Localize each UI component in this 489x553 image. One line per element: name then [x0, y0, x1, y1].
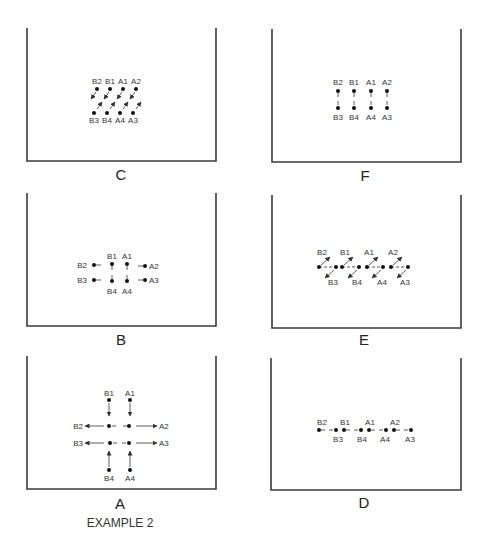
arrow-icon [91, 92, 96, 99]
electrode-dot [110, 262, 114, 266]
electrode-dot [107, 468, 111, 472]
electrode-dot [108, 441, 112, 445]
panel-e: B2 B1 A1 A2 B3 B4 A4 A3 E [272, 195, 461, 348]
electrode-dot [409, 428, 413, 432]
electrode-dot [118, 111, 122, 115]
label-a4: A4 [125, 474, 135, 483]
electrode-dot [367, 428, 371, 432]
panel-e-label: E [359, 331, 369, 348]
label-b3: B3 [328, 278, 338, 287]
panel-a-frame [27, 356, 216, 489]
label-b2: B2 [317, 418, 327, 427]
label-b3: B3 [73, 439, 83, 448]
arrow-icon [97, 102, 102, 109]
arrow-icon [123, 102, 128, 109]
label-a4: A4 [115, 116, 125, 125]
label-b2: B2 [77, 261, 87, 270]
panel-c: B2 B1 A1 A2 B3 B4 A4 A3 C [27, 28, 216, 183]
label-b4: B4 [102, 116, 112, 125]
electrode-dot [385, 89, 389, 93]
electrode-dot [128, 468, 132, 472]
arrow-icon [397, 270, 406, 278]
label-a1: A1 [364, 248, 374, 257]
panel-e-frame [272, 195, 461, 328]
panel-a: B1 A1 B2 A2 B3 A3 B4 A4 A EXAMPLE 2 [27, 356, 216, 530]
electrode-dot [125, 262, 129, 266]
label-a3: A3 [149, 276, 159, 285]
electrode-dot [385, 106, 389, 110]
electrode-dot [317, 265, 321, 269]
panel-f-frame [272, 29, 461, 162]
arrow-icon [104, 92, 109, 99]
electrode-dot [334, 265, 338, 269]
label-b1: B1 [340, 248, 350, 257]
panel-a-label: A [115, 495, 125, 512]
panel-b: B1 A1 B2 B3 A2 A3 B4 A4 B [27, 193, 216, 348]
electrode-dot [127, 424, 131, 428]
electrode-dot [143, 278, 147, 282]
label-b1: B1 [349, 78, 359, 87]
label-b4: B4 [349, 113, 359, 122]
arrow-icon [117, 92, 122, 99]
electrode-dot [92, 111, 96, 115]
electrode-dot [392, 428, 396, 432]
label-a2: A2 [131, 77, 141, 86]
label-b3: B3 [333, 435, 343, 444]
electrode-dot [352, 89, 356, 93]
electrode-dot [381, 265, 385, 269]
electrode-dot [127, 441, 131, 445]
label-a1: A1 [366, 78, 376, 87]
electrode-dot [389, 265, 393, 269]
figure-caption: EXAMPLE 2 [87, 516, 154, 530]
electrode-dot [131, 111, 135, 115]
label-b2: B2 [92, 77, 102, 86]
label-b1: B1 [105, 77, 115, 86]
label-b1: B1 [104, 389, 114, 398]
label-a3: A3 [159, 439, 169, 448]
label-a4: A4 [122, 287, 132, 296]
label-a3: A3 [382, 113, 392, 122]
panel-c-frame [27, 28, 216, 161]
electrode-dot [107, 398, 111, 402]
electrode-dot [105, 111, 109, 115]
electrode-dot [108, 87, 112, 91]
label-a2: A2 [382, 78, 392, 87]
arrow-icon [344, 257, 353, 265]
label-b1: B1 [107, 252, 117, 261]
electrode-dot [365, 265, 369, 269]
electrode-dot [110, 279, 114, 283]
label-a4: A4 [366, 113, 376, 122]
arrow-icon [136, 102, 141, 109]
electrode-dot [342, 428, 346, 432]
electrode-dot [369, 89, 373, 93]
panel-b-label: B [116, 331, 126, 348]
label-a3: A3 [405, 435, 415, 444]
electrode-dot [357, 265, 361, 269]
diagram-canvas: B2 B1 A1 A2 B3 B4 A4 A3 C B2 B1 A1 [0, 0, 489, 553]
arrow-icon [321, 257, 330, 265]
label-a4: A4 [380, 435, 390, 444]
label-a1: A1 [125, 389, 135, 398]
label-a1: A1 [365, 418, 375, 427]
electrode-dot [369, 106, 373, 110]
label-b2: B2 [73, 422, 83, 431]
arrow-icon [372, 270, 381, 278]
electrode-dot [121, 87, 125, 91]
label-b3: B3 [77, 276, 87, 285]
electrode-dot [336, 89, 340, 93]
arrow-icon [130, 92, 135, 99]
electrode-dot [125, 279, 129, 283]
label-a3: A3 [400, 278, 410, 287]
arrow-icon [325, 270, 334, 278]
electrode-dot [352, 106, 356, 110]
label-b1: B1 [340, 418, 350, 427]
electrode-dot [128, 398, 132, 402]
electrode-dot [406, 265, 410, 269]
electrode-dot [336, 106, 340, 110]
panel-d: B2 B1 A1 A2 B3 B4 A4 A3 D [271, 358, 461, 511]
panel-c-label: C [116, 166, 127, 183]
label-b4: B4 [357, 435, 367, 444]
label-a2: A2 [388, 248, 398, 257]
label-a1: A1 [122, 252, 132, 261]
panel-d-label: D [359, 494, 370, 511]
